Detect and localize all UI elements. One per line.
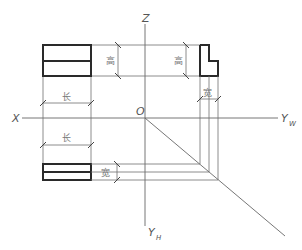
top-length-label: 长: [62, 132, 71, 143]
x-axis-label: X: [11, 112, 20, 125]
top-width-label: 宽: [101, 167, 110, 178]
front-length-label: 长: [62, 91, 71, 102]
side-height-label: 高: [174, 55, 183, 66]
yh-axis-subscript: H: [156, 234, 162, 242]
z-axis-label: Z: [141, 12, 150, 25]
side-view-outline: [200, 45, 218, 76]
diagonal-45-line: [145, 118, 285, 236]
yw-axis-subscript: W: [289, 120, 297, 128]
yw-axis-label: Y: [281, 112, 289, 125]
side-width-label: 宽: [203, 87, 212, 98]
origin-label: O: [136, 105, 145, 118]
front-height-label: 高: [106, 55, 115, 66]
projection-diagram: Z X O Y W Y H 高 高 宽 长 长 宽: [0, 0, 302, 250]
yh-axis-label: Y: [148, 226, 156, 239]
